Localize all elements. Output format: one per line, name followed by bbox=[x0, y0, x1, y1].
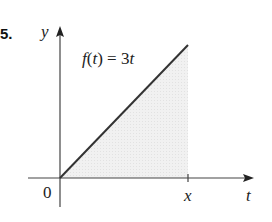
function-label-var2: t bbox=[129, 49, 135, 68]
x-tick-label: x bbox=[183, 186, 192, 205]
function-label: f(t) = 3t bbox=[82, 49, 135, 68]
y-axis-label: y bbox=[39, 22, 49, 41]
origin-label: 0 bbox=[43, 183, 52, 202]
function-label-equals: = 3 bbox=[103, 49, 130, 68]
t-axis-label: t bbox=[246, 186, 252, 205]
problem-number: 5. bbox=[0, 25, 13, 42]
diagram-canvas: 5. y t 0 x f(t) = 3t bbox=[0, 0, 272, 222]
